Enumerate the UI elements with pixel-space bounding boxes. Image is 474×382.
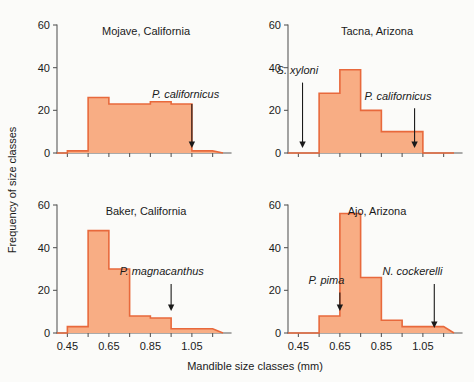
panel-title-mojave: Mojave, California <box>102 25 191 37</box>
annotation-label-baker-0: P. magnacanthus <box>120 265 205 277</box>
y-tick-label-tacna-60: 60 <box>269 19 281 31</box>
annotation-arrow-head-tacna-0 <box>299 142 305 149</box>
panel-title-ajo: Ajo, Arizona <box>348 205 408 217</box>
panel-title-baker: Baker, California <box>106 205 188 217</box>
annotation-arrow-head-baker-0 <box>168 305 174 312</box>
y-tick-label-ajo-20: 20 <box>269 284 281 296</box>
annotation-label-ajo-0: P. pima <box>308 274 344 286</box>
histogram-figure: 0204060Mojave, CaliforniaP. californicus… <box>0 0 474 382</box>
x-tick-label-ajo-0.85: 0.85 <box>371 340 392 352</box>
x-tick-label-baker-0.85: 0.85 <box>140 340 161 352</box>
x-tick-label-ajo-0.65: 0.65 <box>329 340 350 352</box>
y-tick-label-ajo-60: 60 <box>269 199 281 211</box>
x-tick-label-ajo-1.05: 1.05 <box>412 340 433 352</box>
y-tick-label-mojave-0: 0 <box>44 147 50 159</box>
panel-title-tacna: Tacna, Arizona <box>341 25 414 37</box>
x-tick-label-baker-0.45: 0.45 <box>57 340 78 352</box>
y-tick-label-mojave-40: 40 <box>38 62 50 74</box>
panel-ajo: 02040600.450.650.851.05Ajo, ArizonaP. pi… <box>269 199 462 352</box>
y-tick-label-baker-0: 0 <box>44 327 50 339</box>
y-tick-label-ajo-0: 0 <box>275 327 281 339</box>
panel-mojave: 0204060Mojave, CaliforniaP. californicus <box>38 19 231 159</box>
y-tick-label-ajo-40: 40 <box>269 242 281 254</box>
y-tick-label-baker-40: 40 <box>38 242 50 254</box>
x-tick-label-ajo-0.45: 0.45 <box>288 340 309 352</box>
annotation-label-ajo-1: N. cockerelli <box>383 265 443 277</box>
figure-canvas: 0204060Mojave, CaliforniaP. californicus… <box>0 0 474 382</box>
x-tick-label-baker-1.05: 1.05 <box>181 340 202 352</box>
panel-tacna: 0204060Tacna, ArizonaS. xyloniP. califor… <box>269 19 462 159</box>
y-tick-label-tacna-20: 20 <box>269 104 281 116</box>
annotation-label-mojave-0: P. californicus <box>152 88 220 100</box>
y-tick-label-mojave-60: 60 <box>38 19 50 31</box>
y-tick-label-tacna-0: 0 <box>275 147 281 159</box>
y-tick-label-baker-20: 20 <box>38 284 50 296</box>
x-tick-label-baker-0.65: 0.65 <box>98 340 119 352</box>
histogram-baker <box>57 231 223 333</box>
panel-baker: 02040600.450.650.851.05Baker, California… <box>38 199 231 352</box>
histogram-tacna <box>288 70 454 153</box>
y-axis-title: Frequency of size classes <box>6 126 18 253</box>
annotation-label-tacna-0: S. xyloni <box>277 64 319 76</box>
y-tick-label-mojave-20: 20 <box>38 104 50 116</box>
annotation-label-tacna-1: P. californicus <box>364 90 432 102</box>
x-axis-title: Mandible size classes (mm) <box>187 360 323 372</box>
y-tick-label-baker-60: 60 <box>38 199 50 211</box>
histogram-mojave <box>57 98 223 153</box>
